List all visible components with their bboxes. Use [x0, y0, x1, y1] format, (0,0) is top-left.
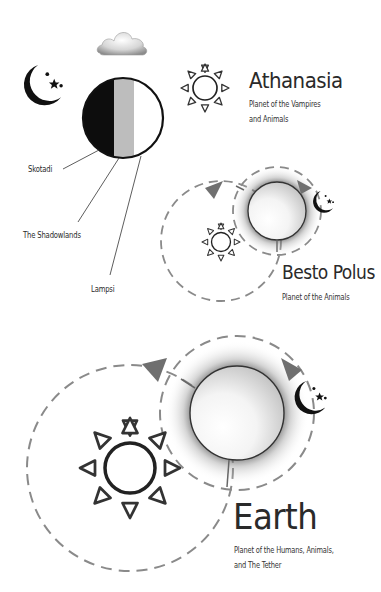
athanasia-subtitle-line1: Planet of the Vampires [249, 97, 321, 112]
sun-icon [202, 223, 240, 261]
besto-polus-title: Besto Polus [282, 261, 375, 283]
athanasia-title: Athanasia [249, 68, 343, 93]
besto-polus-subtitle: Planet of the Animals [282, 290, 349, 305]
orbit-arrow [205, 181, 223, 199]
skotadi-label: Skotadi [28, 163, 52, 174]
shadowlands-label: The Shadowlands [23, 229, 81, 240]
crescent-moon-stars-icon [24, 65, 63, 105]
leader-lines [63, 150, 141, 275]
earth-subtitle-line2: and The Tether [234, 558, 281, 573]
cloud-icon [97, 32, 147, 55]
athanasia-subtitle-line2: and Animals [249, 112, 288, 127]
lampsi-label: Lampsi [91, 283, 115, 294]
shadowlands-region [114, 76, 134, 162]
sun-icon [80, 418, 180, 518]
orbit-arrow [142, 358, 167, 382]
sun-icon [181, 64, 229, 112]
earth-title: Earth [233, 496, 317, 537]
besto-polus-planet [248, 182, 306, 240]
earth-subtitle-line1: Planet of the Humans, Animals, [234, 543, 334, 558]
athanasia-planet [80, 76, 168, 162]
earth-planet [190, 366, 284, 460]
